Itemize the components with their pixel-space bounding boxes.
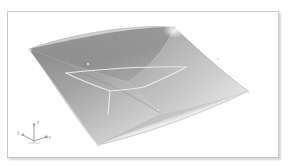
axis-tip-y (22, 134, 24, 136)
3d-canvas[interactable]: z x y (8, 12, 278, 157)
axis-line-x (34, 137, 46, 141)
coordinate-axis-indicator: z x y (16, 117, 54, 149)
axis-label-y: y (17, 130, 20, 135)
axis-label-x: x (48, 135, 51, 140)
surface-shading-overlay (29, 26, 248, 145)
peak-highlight (163, 22, 185, 38)
axis-label-z: z (37, 120, 40, 125)
axis-line-y (23, 135, 34, 141)
render-frame[interactable]: z x y (7, 11, 279, 158)
surface-geometry (29, 26, 248, 145)
axis-tip-z (33, 123, 35, 125)
axis-tip-x (45, 136, 48, 139)
viewport: z x y (0, 0, 288, 167)
